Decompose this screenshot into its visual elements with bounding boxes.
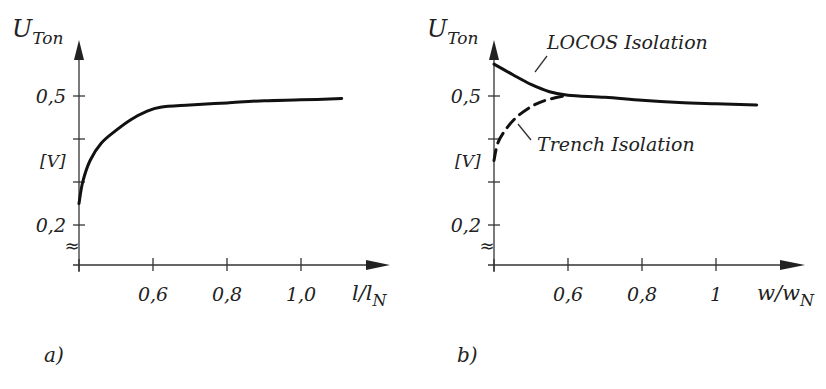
y-tick-label: 0,5 (451, 85, 481, 107)
x-tick-label: 1,0 (286, 283, 316, 305)
trench-leader-line (518, 124, 531, 140)
figure: ≈ 0,20,5 0,60,81,0 UTon [V] l/lN a) ≈ 0,… (0, 0, 826, 389)
axis-break-icon: ≈ (64, 235, 79, 256)
y-unit-label: [V] (40, 151, 66, 171)
y-tick-label: 0,5 (36, 85, 66, 107)
x-tick-label: 0,6 (553, 283, 583, 305)
y-tick-label: 0,2 (36, 214, 66, 236)
chart-panel-a: ≈ 0,20,5 0,60,81,0 UTon [V] l/lN a) (12, 15, 390, 367)
y-axis-arrow-icon (74, 40, 84, 60)
x-axis-arrow-icon (366, 260, 390, 270)
trench-annotation: Trench Isolation (537, 133, 695, 155)
series-line-locos-isolation (494, 64, 757, 105)
x-axis-label: l/lN (352, 281, 388, 310)
x-tick-label: 1 (710, 283, 722, 305)
y-axis-label: UTon (12, 15, 63, 48)
locos-leader-line (535, 56, 547, 72)
x-tick-label: 0,8 (212, 283, 242, 305)
y-unit-label: [V] (455, 151, 481, 171)
x-tick-label: 0,6 (138, 283, 168, 305)
x-axis-arrow-icon (780, 260, 805, 270)
y-axis-label: UTon (427, 15, 478, 48)
x-axis-label: w/wN (757, 281, 815, 310)
panel-label: b) (457, 343, 478, 367)
y-tick-label: 0,2 (451, 214, 481, 236)
y-axis-arrow-icon (489, 40, 499, 60)
series-line-u-ton (79, 99, 342, 204)
panel-label: a) (44, 343, 64, 367)
axis-break-icon: ≈ (479, 235, 494, 256)
chart-panel-b: ≈ 0,20,5 0,60,81 UTon [V] w/wN b) LOCOS … (427, 15, 815, 367)
x-tick-label: 0,8 (627, 283, 657, 305)
locos-annotation: LOCOS Isolation (546, 31, 708, 53)
